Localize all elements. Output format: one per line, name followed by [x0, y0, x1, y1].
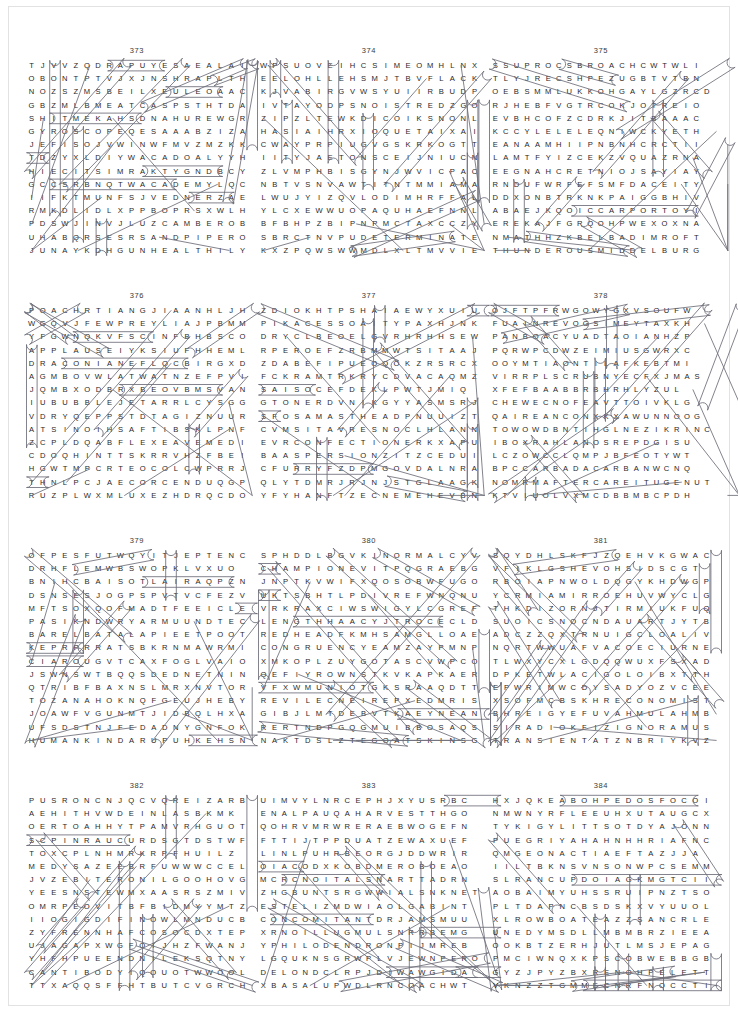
grid-letter[interactable]: A [601, 476, 611, 489]
grid-letter[interactable]: U [621, 344, 631, 357]
grid-letter[interactable]: M [501, 847, 512, 860]
grid-letter[interactable]: R [48, 681, 59, 694]
grid-letter[interactable]: R [414, 138, 425, 151]
grid-letter[interactable]: V [335, 423, 346, 436]
grid-letter[interactable]: Y [634, 681, 645, 694]
grid-letter[interactable]: Y [501, 820, 512, 833]
grid-letter[interactable]: Z [671, 330, 681, 343]
grid-letter[interactable]: E [170, 628, 181, 641]
grid-letter[interactable]: M [114, 847, 125, 860]
grid-letter[interactable]: I [26, 396, 37, 409]
grid-letter[interactable]: S [641, 304, 651, 317]
grid-letter[interactable]: E [92, 952, 103, 965]
grid-letter[interactable]: F [114, 913, 125, 926]
grid-letter[interactable]: F [269, 489, 280, 502]
grid-letter[interactable]: X [425, 217, 436, 230]
letter-grid[interactable]: SPHDDLBGVKINORMALCYVCHAMPIONEVITPQGRAEBG… [258, 549, 480, 747]
grid-letter[interactable]: L [302, 707, 313, 720]
grid-letter[interactable]: W [126, 178, 137, 191]
grid-letter[interactable]: A [170, 125, 181, 138]
grid-letter[interactable]: A [413, 681, 424, 694]
grid-letter[interactable]: M [302, 681, 313, 694]
grid-letter[interactable]: I [402, 151, 413, 164]
grid-letter[interactable]: N [656, 913, 667, 926]
grid-letter[interactable]: I [159, 304, 170, 317]
grid-letter[interactable]: P [358, 462, 369, 475]
grid-letter[interactable]: O [391, 462, 402, 475]
grid-letter[interactable]: O [70, 655, 81, 668]
grid-letter[interactable]: C [137, 330, 148, 343]
grid-letter[interactable]: C [436, 165, 447, 178]
grid-letter[interactable]: E [335, 436, 346, 449]
grid-letter[interactable]: M [510, 476, 520, 489]
grid-letter[interactable]: L [215, 304, 226, 317]
grid-letter[interactable]: X [662, 317, 672, 330]
grid-letter[interactable]: H [48, 562, 59, 575]
grid-letter[interactable]: L [380, 383, 391, 396]
grid-letter[interactable]: B [557, 694, 568, 707]
grid-letter[interactable]: W [269, 191, 280, 204]
grid-letter[interactable]: D [447, 681, 458, 694]
grid-letter[interactable]: R [523, 681, 534, 694]
grid-letter[interactable]: O [181, 873, 192, 886]
grid-letter[interactable]: A [458, 125, 469, 138]
grid-letter[interactable]: J [148, 707, 159, 720]
grid-letter[interactable]: O [369, 125, 380, 138]
grid-letter[interactable]: V [104, 330, 115, 343]
grid-letter[interactable]: S [115, 231, 126, 244]
grid-letter[interactable]: F [115, 602, 126, 615]
grid-letter[interactable]: D [192, 476, 203, 489]
grid-letter[interactable]: R [215, 462, 226, 475]
grid-letter[interactable]: Y [634, 575, 645, 588]
grid-letter[interactable]: N [226, 952, 237, 965]
grid-letter[interactable]: X [447, 125, 458, 138]
grid-letter[interactable]: E [631, 423, 641, 436]
grid-letter[interactable]: Y [659, 165, 670, 178]
grid-letter[interactable]: N [347, 668, 358, 681]
grid-letter[interactable]: M [237, 317, 248, 330]
grid-letter[interactable]: J [148, 304, 159, 317]
grid-letter[interactable]: U [159, 860, 170, 873]
grid-letter[interactable]: Q [37, 383, 48, 396]
grid-letter[interactable]: A [269, 734, 280, 747]
grid-letter[interactable]: T [413, 383, 424, 396]
grid-letter[interactable]: T [237, 820, 248, 833]
grid-letter[interactable]: O [26, 72, 37, 85]
grid-letter[interactable]: A [601, 462, 611, 475]
grid-letter[interactable]: W [534, 952, 545, 965]
grid-letter[interactable]: L [671, 396, 681, 409]
grid-letter[interactable]: E [571, 476, 581, 489]
grid-letter[interactable]: S [501, 59, 512, 72]
grid-letter[interactable]: R [520, 410, 530, 423]
grid-letter[interactable]: C [424, 370, 435, 383]
grid-letter[interactable]: C [26, 655, 37, 668]
grid-letter[interactable]: N [170, 370, 181, 383]
grid-letter[interactable]: S [93, 344, 104, 357]
grid-letter[interactable]: H [215, 707, 226, 720]
grid-letter[interactable]: W [510, 423, 520, 436]
grid-letter[interactable]: Z [601, 549, 612, 562]
grid-letter[interactable]: J [70, 217, 81, 230]
grid-letter[interactable]: A [557, 794, 568, 807]
grid-letter[interactable]: B [137, 383, 148, 396]
grid-letter[interactable]: K [369, 383, 380, 396]
grid-letter[interactable]: S [612, 900, 623, 913]
grid-letter[interactable]: G [37, 462, 48, 475]
grid-letter[interactable]: K [425, 138, 436, 151]
grid-letter[interactable]: G [557, 979, 568, 992]
grid-letter[interactable]: E [313, 449, 324, 462]
grid-letter[interactable]: H [358, 304, 369, 317]
grid-letter[interactable]: R [148, 449, 159, 462]
grid-letter[interactable]: B [459, 939, 469, 952]
grid-letter[interactable]: A [181, 125, 192, 138]
grid-letter[interactable]: P [269, 939, 279, 952]
grid-letter[interactable]: L [568, 655, 579, 668]
grid-letter[interactable]: H [670, 191, 681, 204]
grid-letter[interactable]: L [557, 820, 568, 833]
grid-letter[interactable]: R [534, 834, 545, 847]
grid-letter[interactable]: R [402, 615, 413, 628]
grid-letter[interactable]: W [671, 449, 681, 462]
grid-letter[interactable]: C [159, 217, 170, 230]
grid-letter[interactable]: V [701, 628, 712, 641]
grid-letter[interactable]: K [662, 396, 672, 409]
